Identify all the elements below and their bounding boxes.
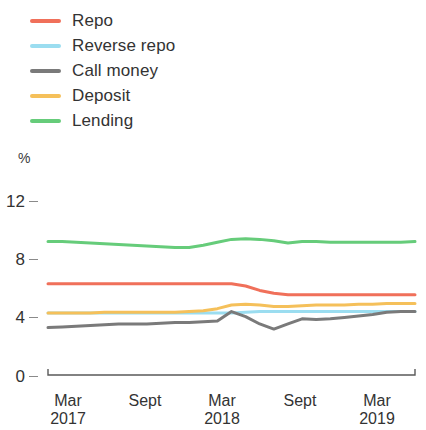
series-line-repo bbox=[48, 284, 415, 295]
plot-area bbox=[0, 0, 426, 430]
x-tick-mar-2018: Mar 2018 bbox=[187, 392, 257, 429]
x-tick-sept-2018: Sept bbox=[265, 392, 335, 410]
x-tick-sept-2017: Sept bbox=[110, 392, 180, 410]
series-line-lending bbox=[48, 239, 415, 248]
x-tick-mar-2019: Mar 2019 bbox=[342, 392, 412, 429]
x-axis-line bbox=[48, 369, 415, 375]
x-tick-mar-2017: Mar 2017 bbox=[33, 392, 103, 429]
line-chart: Repo Reverse repo Call money Deposit Len… bbox=[0, 0, 426, 430]
